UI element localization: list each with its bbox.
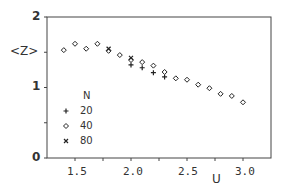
- data-point-N40: [173, 76, 178, 81]
- legend-marker-N20: [64, 109, 69, 114]
- x-tick-label-2.5: 2.5: [178, 165, 198, 178]
- legend-marker-N40: [64, 124, 69, 129]
- data-point-N40: [207, 86, 212, 91]
- x-tick-label-1.5: 1.5: [67, 165, 87, 178]
- data-point-N40: [84, 46, 89, 51]
- data-point-N40: [140, 60, 145, 65]
- data-point-N40: [185, 77, 190, 82]
- legend-label-40: 40: [80, 120, 93, 131]
- data-point-N40: [162, 69, 167, 74]
- scatter-plot: [0, 0, 284, 186]
- data-point-N40: [73, 41, 78, 46]
- data-point-N40: [196, 82, 201, 87]
- data-point-N40: [95, 41, 100, 46]
- x-tick-label-2.0: 2.0: [123, 165, 143, 178]
- data-point-N40: [151, 63, 156, 68]
- legend-label-80: 80: [80, 135, 93, 146]
- legend-marker-N80: [64, 139, 68, 143]
- data-point-N40: [61, 48, 66, 53]
- data-point-N40: [117, 53, 122, 58]
- y-tick-label-0: 0: [32, 150, 40, 164]
- x-axis-label: U: [212, 172, 221, 186]
- y-tick-label-2: 2: [32, 9, 40, 23]
- y-axis-label: <Z>: [10, 44, 38, 58]
- data-point-N40: [218, 91, 223, 96]
- data-point-N40: [229, 93, 234, 98]
- legend-title: N: [83, 90, 90, 101]
- x-tick-label-3.0: 3.0: [235, 165, 255, 178]
- data-point-N20: [151, 70, 156, 75]
- y-tick-label-1: 1: [32, 79, 40, 93]
- data-point-N20: [140, 65, 145, 70]
- legend-label-20: 20: [80, 105, 93, 116]
- data-point-N40: [241, 100, 246, 105]
